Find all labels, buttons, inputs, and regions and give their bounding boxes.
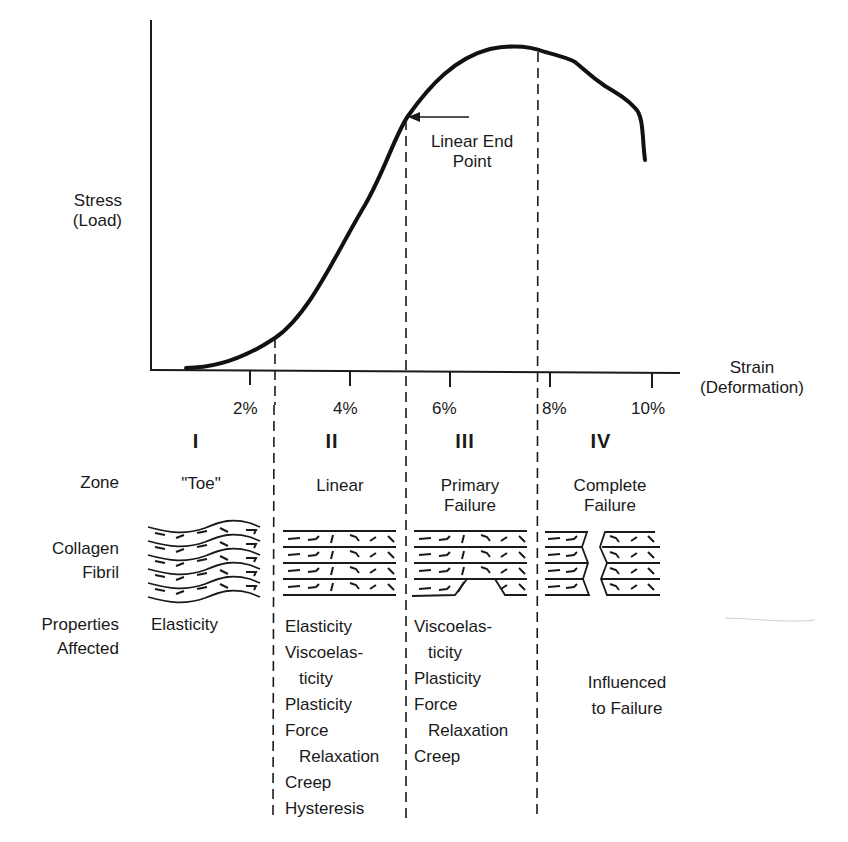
x-axis-label-line2: (Deformation) [682, 378, 822, 398]
row-label-fibril: Fibril [10, 561, 119, 585]
property-item: ticity [414, 640, 508, 666]
row-label-affected: Affected [10, 637, 119, 661]
zone-name-toe: "Toe" [146, 474, 256, 494]
property-item: Plasticity [285, 692, 379, 718]
fibril-sketch-toe [148, 521, 260, 603]
zone-numeral-1: I [176, 430, 216, 453]
properties-zone-2: Elasticity Viscoelas- ticity Plasticity … [285, 614, 379, 822]
row-label-properties-affected: Properties Affected [10, 613, 119, 661]
zone-name-complete-failure: Complete Failure [545, 476, 675, 516]
zone-name-complete: Complete [545, 476, 675, 496]
property-item: Viscoelas- [285, 640, 379, 666]
zone-name-primary: Primary [410, 476, 530, 496]
zone-name-failure: Failure [410, 496, 530, 516]
annotation-line1: Linear End [412, 132, 532, 152]
property-item: Relaxation [285, 744, 379, 770]
y-axis-label-line2: (Load) [40, 211, 122, 231]
property-item: Viscoelas- [414, 614, 508, 640]
stress-strain-curve [186, 47, 645, 368]
tick-label-10: 10% [631, 399, 665, 419]
property-item: Relaxation [414, 718, 508, 744]
fibril-sketch-primary-failure [412, 531, 527, 596]
annotation-line2: Point [412, 152, 532, 172]
properties-zone-1: Elasticity [151, 612, 218, 638]
tick-label-8: 8% [542, 399, 567, 419]
property-item: Force [414, 692, 508, 718]
property-item: Influenced [562, 670, 692, 696]
row-label-properties: Properties [10, 613, 119, 637]
scan-smudge [725, 618, 815, 621]
property-item: Plasticity [414, 666, 508, 692]
row-label-zone: Zone [20, 473, 119, 493]
tick-label-6: 6% [432, 399, 457, 419]
property-item: ticity [285, 666, 379, 692]
property-item: Creep [285, 770, 379, 796]
property-item: Elasticity [151, 612, 218, 638]
property-item: Force [285, 718, 379, 744]
linear-end-point-annotation: Linear End Point [412, 132, 532, 172]
zone-name-failure-2: Failure [545, 496, 675, 516]
tick-label-4: 4% [333, 399, 358, 419]
x-axis-label: Strain (Deformation) [682, 358, 822, 398]
properties-zone-3: Viscoelas- ticity Plasticity Force Relax… [414, 614, 508, 770]
tick-label-2: 2% [233, 399, 258, 419]
zone-numeral-2: II [312, 430, 352, 453]
zone-numeral-3: III [440, 430, 490, 453]
fibril-sketch-complete-failure [545, 532, 660, 595]
fibril-sketch-linear [283, 531, 396, 595]
property-item: Hysteresis [285, 796, 379, 822]
y-axis-label-line1: Stress [40, 191, 122, 211]
x-axis-label-line1: Strain [682, 358, 822, 378]
x-axis [150, 370, 680, 373]
property-item: Creep [414, 744, 508, 770]
y-axis-label: Stress (Load) [40, 191, 122, 231]
zone-name-primary-failure: Primary Failure [410, 476, 530, 516]
row-label-collagen: Collagen [10, 537, 119, 561]
zone-numeral-4: IV [576, 430, 626, 453]
property-item: to Failure [562, 696, 692, 722]
property-item: Elasticity [285, 614, 379, 640]
properties-zone-4: Influenced to Failure [562, 670, 692, 722]
zone-name-linear: Linear [285, 476, 395, 496]
row-label-collagen-fibril: Collagen Fibril [10, 537, 119, 585]
